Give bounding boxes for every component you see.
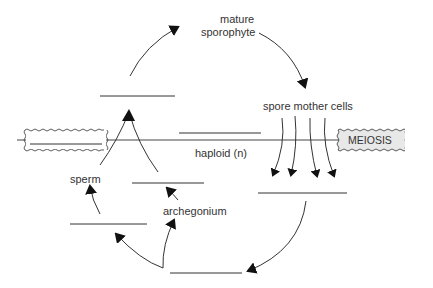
label-sperm: sperm [70, 173, 101, 185]
arrow-to-archegonium [163, 220, 174, 268]
fertilization-box [24, 129, 108, 151]
meiosis-box-wrap: MEIOSIS [335, 127, 405, 152]
arrow-to-male-gametophyte [116, 234, 163, 268]
arrow-to-sporophyte [130, 27, 178, 76]
label-sporophyte: sporophyte [201, 26, 255, 38]
arrow-to-bottom [248, 201, 306, 271]
arrow-to-sperm [90, 186, 100, 214]
meiosis-arrow-1 [273, 118, 283, 175]
meiosis-arrow-3 [310, 118, 317, 176]
label-archegonium: archegonium [163, 205, 227, 217]
label-mature: mature [220, 13, 254, 25]
meiosis-arrow-4 [324, 118, 334, 176]
meiosis-box-outline [126, 126, 192, 128]
arrow-to-egg [167, 188, 178, 200]
label-haploid: haploid (n) [195, 147, 247, 159]
arrow-to-spore-mother-cells [259, 33, 305, 87]
fertilization-arrowhead [122, 109, 135, 121]
meiosis-arrow-2 [291, 116, 296, 175]
meiosis-label: MEIOSIS [335, 127, 405, 152]
label-spore-mother-cells: spore mother cells [263, 100, 353, 112]
